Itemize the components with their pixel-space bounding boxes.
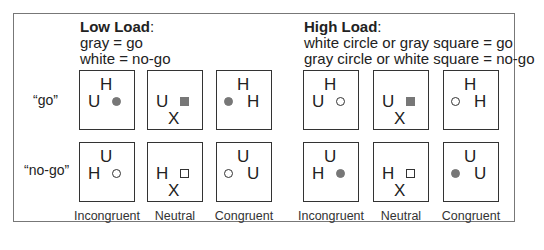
letter: H (474, 93, 486, 110)
low-load-rule-go: gray = go (80, 35, 170, 51)
stimulus-low-go-neutral: U X (147, 70, 203, 130)
white-square-icon (406, 169, 415, 178)
letter: H (312, 165, 324, 182)
high-load-heading: High Load: white circle or gray square =… (304, 19, 535, 67)
letter: U (237, 148, 249, 165)
stimulus-high-nogo-neutral: H X (373, 142, 429, 202)
row-label-nogo: “no-go” (24, 162, 69, 178)
stimulus-high-go-incongruent: H U (303, 70, 359, 130)
stimulus-high-go-neutral: U X (373, 70, 429, 130)
letter: X (168, 110, 179, 127)
stimulus-low-go-congruent: H H (216, 70, 272, 130)
letter: H (382, 165, 394, 182)
gray-square-icon (180, 97, 189, 106)
column-label-congruent: Congruent (199, 209, 289, 223)
stimulus-low-go-incongruent: H U (79, 70, 135, 130)
white-circle-icon (451, 97, 460, 106)
white-circle-icon (112, 169, 121, 178)
letter: U (474, 165, 486, 182)
letter: U (100, 148, 112, 165)
gray-circle-icon (336, 169, 345, 178)
white-circle-icon (224, 169, 233, 178)
letter: U (382, 93, 394, 110)
gray-circle-icon (451, 169, 460, 178)
letter: X (394, 110, 405, 127)
letter: U (464, 148, 476, 165)
colon: : (377, 18, 381, 35)
letter: U (247, 165, 259, 182)
letter: H (237, 76, 249, 93)
letter: H (464, 76, 476, 93)
white-square-icon (180, 169, 189, 178)
gray-square-icon (406, 97, 415, 106)
white-circle-icon (336, 97, 345, 106)
high-load-title: High Load (304, 18, 377, 35)
low-load-title: Low Load (80, 18, 150, 35)
column-label-congruent: Congruent (426, 209, 516, 223)
colon: : (150, 18, 154, 35)
low-load-rule-nogo: white = no-go (80, 51, 170, 67)
letter: X (394, 182, 405, 199)
letter: H (88, 165, 100, 182)
letter: H (100, 76, 112, 93)
gray-circle-icon (112, 97, 121, 106)
letter: H (247, 93, 259, 110)
stimulus-low-nogo-congruent: U U (216, 142, 272, 202)
letter: U (156, 93, 168, 110)
gray-circle-icon (224, 97, 233, 106)
stimulus-high-go-congruent: H H (443, 70, 499, 130)
stimulus-high-nogo-incongruent: U H (303, 142, 359, 202)
letter: U (88, 93, 100, 110)
high-load-rule-go: white circle or gray square = go (304, 35, 535, 51)
stimulus-low-nogo-incongruent: U H (79, 142, 135, 202)
letter: U (324, 148, 336, 165)
low-load-heading: Low Load: gray = go white = no-go (80, 19, 170, 67)
letter: U (312, 93, 324, 110)
letter: X (168, 182, 179, 199)
letter: H (156, 165, 168, 182)
stimulus-high-nogo-congruent: U U (443, 142, 499, 202)
row-label-go: “go” (33, 92, 58, 108)
high-load-rule-nogo: gray circle or white square = no-go (304, 51, 535, 67)
stimulus-low-nogo-neutral: H X (147, 142, 203, 202)
letter: H (324, 76, 336, 93)
